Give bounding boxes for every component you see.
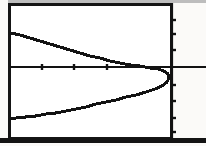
graph-plot [0, 0, 206, 146]
calculator-screenshot [0, 0, 206, 146]
parabola-curve [11, 33, 169, 119]
